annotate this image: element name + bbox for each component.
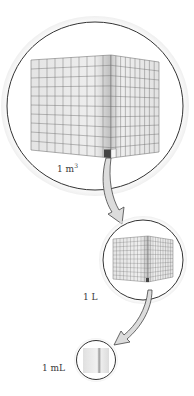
- volume-units-diagram: 1 m3 1 L 1 mL: [0, 0, 194, 396]
- cubic-meter-cube: [31, 55, 159, 158]
- milliliter-circle: [74, 338, 118, 382]
- label-liter: 1 L: [83, 293, 98, 302]
- liter-cube: [113, 236, 173, 282]
- label-cubic-meter: 1 m3: [57, 163, 78, 174]
- highlighted-milliliter-cell: [146, 278, 149, 282]
- label-milliliter: 1 mL: [42, 364, 65, 373]
- milliliter-cube: [83, 348, 109, 373]
- highlighted-liter-cell: [104, 150, 111, 159]
